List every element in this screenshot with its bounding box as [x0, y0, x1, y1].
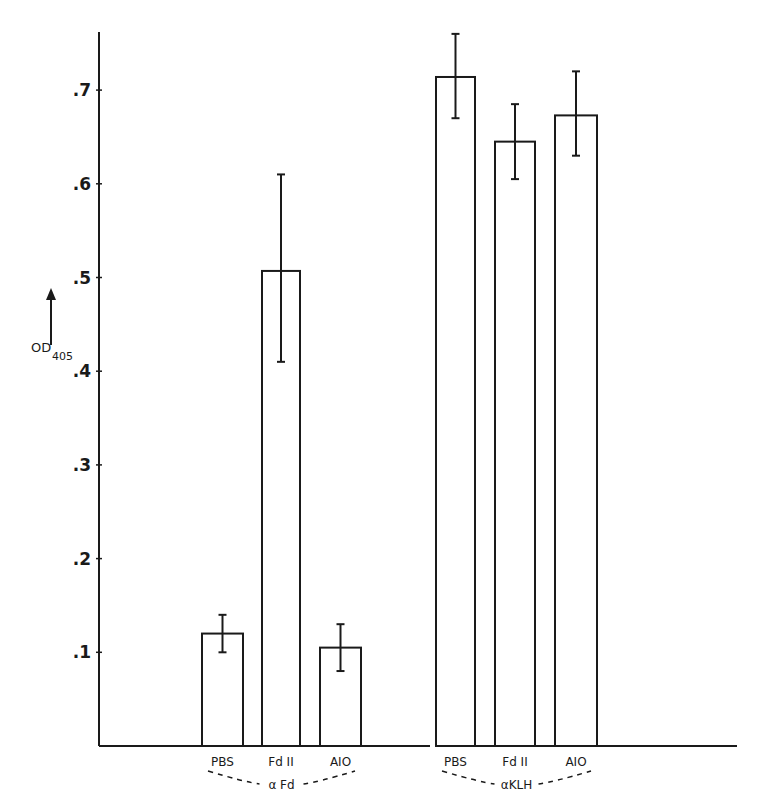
- bars: [202, 34, 597, 746]
- category-label: PBS: [211, 755, 234, 769]
- group-bracket-right: [539, 771, 592, 784]
- group-bracket-left: [208, 771, 260, 784]
- y-tick-label: .7: [73, 80, 91, 100]
- group-label: αKLH: [501, 778, 533, 792]
- group-bracket-left: [442, 771, 495, 784]
- bar-chart: .1.2.3.4.5.6.7 PBSFd IIAIOα FdPBSFd IIAI…: [0, 0, 763, 810]
- group-bracket-right: [304, 771, 356, 784]
- bar-pbs: [436, 77, 475, 746]
- y-axis-label: OD405: [31, 288, 73, 363]
- bar-aio: [555, 115, 597, 746]
- y-tick-label: .1: [73, 642, 91, 662]
- bar-fdii: [495, 142, 535, 746]
- y-tick-label: .4: [73, 361, 91, 381]
- y-tick-label: .2: [73, 549, 91, 569]
- y-tick-label: .3: [73, 455, 91, 475]
- category-label: AIO: [330, 755, 351, 769]
- category-label: AIO: [565, 755, 586, 769]
- y-label: OD: [31, 340, 51, 355]
- y-tick-label: .5: [73, 268, 91, 288]
- y-label-subscript: 405: [52, 350, 73, 363]
- category-labels: PBSFd IIAIOα FdPBSFd IIAIOαKLH: [208, 755, 591, 792]
- y-axis: .1.2.3.4.5.6.7: [73, 32, 102, 746]
- category-label: Fd II: [502, 755, 527, 769]
- group-label: α Fd: [268, 778, 294, 792]
- category-label: PBS: [444, 755, 467, 769]
- y-tick-label: .6: [73, 174, 91, 194]
- category-label: Fd II: [268, 755, 293, 769]
- arrow-head-icon: [46, 288, 56, 300]
